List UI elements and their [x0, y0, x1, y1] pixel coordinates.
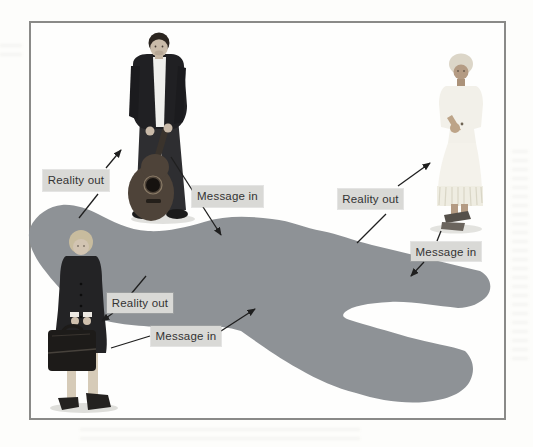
lady-skirt	[438, 143, 482, 188]
label-woman-reality-out: Reality out	[107, 293, 173, 313]
label-lady-message-in: Message in	[411, 242, 481, 261]
woman-eye-left	[77, 245, 79, 247]
woman-button	[80, 283, 83, 286]
woman-hand-left	[71, 317, 79, 325]
label-man-message-in: Message in	[192, 186, 263, 207]
arrow-lady-message-in-tail	[437, 231, 441, 241]
lady-top	[439, 86, 483, 143]
diagram-canvas	[0, 0, 533, 447]
guitar-bridge	[146, 199, 161, 203]
arrow-man-reality-out-head	[106, 150, 121, 168]
lady-watch	[461, 123, 464, 126]
woman-shoe-right	[86, 393, 111, 410]
man-eye-right	[162, 46, 164, 48]
label-woman-message-in: Message in	[151, 326, 221, 346]
lady-sandal-top	[444, 211, 471, 223]
man-with-guitar-figure	[128, 33, 195, 225]
arrow-lady-reality-out-tail	[357, 214, 386, 243]
woman-button	[80, 316, 83, 319]
man-hand-left	[146, 127, 155, 136]
woman-hand-right	[83, 317, 91, 325]
woman-eye-right	[83, 245, 85, 247]
man-hand-right	[164, 124, 173, 133]
arrow-woman-message-in-tail	[111, 336, 150, 348]
woman-cuff-right	[83, 312, 92, 317]
label-lady-reality-out: Reality out	[338, 189, 403, 209]
lady-eye-left	[457, 70, 459, 72]
arrow-lady-reality-out-head	[398, 163, 430, 186]
label-man-reality-out: Reality out	[43, 170, 109, 191]
guitar-soundhole	[146, 178, 160, 192]
scanned-page: Reality out Message in Reality out Messa…	[0, 0, 533, 447]
elderly-woman-figure	[430, 54, 483, 234]
lady-eye-right	[463, 70, 465, 72]
lady-face	[454, 65, 469, 80]
man-shoe-right	[166, 209, 188, 219]
lady-neck	[457, 79, 465, 86]
lady-hands	[450, 123, 460, 133]
woman-face	[73, 239, 89, 255]
woman-cuff-left	[70, 312, 79, 317]
briefcase	[48, 326, 96, 371]
man-stubble	[155, 51, 164, 56]
man-eye-left	[155, 46, 157, 48]
woman-button	[80, 294, 83, 297]
woman-button	[80, 305, 83, 308]
